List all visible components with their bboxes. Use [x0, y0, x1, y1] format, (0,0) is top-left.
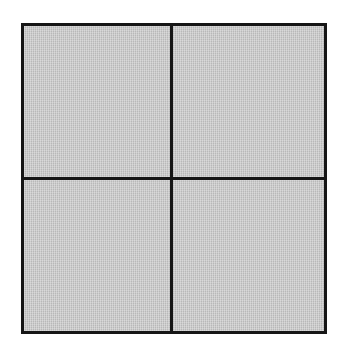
quadrant-top-right [173, 26, 324, 177]
quadrant-bottom-left [24, 180, 170, 331]
quadrant-bottom-right [173, 180, 324, 331]
quadrant-frame [21, 23, 327, 334]
figure-canvas [0, 0, 337, 351]
horizontal-divider [24, 177, 324, 180]
quadrant-top-left [24, 26, 170, 177]
